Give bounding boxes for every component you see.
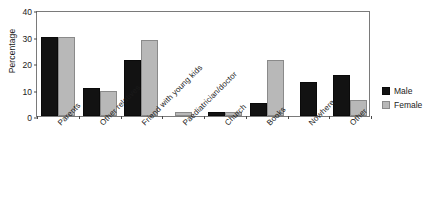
x-tick-mark <box>162 116 163 119</box>
clipped-chart-title <box>8 0 258 2</box>
bar-male <box>250 103 267 116</box>
bar-male <box>333 75 350 116</box>
bar-male <box>300 82 317 116</box>
y-axis-title: Percentage <box>7 16 17 86</box>
y-tick-label: 40 <box>0 7 37 17</box>
bar-group <box>288 12 330 116</box>
x-tick-mark <box>329 116 330 119</box>
x-tick-mark <box>204 116 205 119</box>
legend-swatch-female <box>382 101 390 109</box>
x-tick-mark <box>121 116 122 119</box>
legend-swatch-male <box>382 87 390 95</box>
legend-label: Female <box>394 100 422 110</box>
x-tick-mark <box>246 116 247 119</box>
x-tick-mark <box>288 116 289 119</box>
x-tick-mark <box>371 116 372 119</box>
bar-chart-figure: Percentage 010203040 ParentsOther relati… <box>0 0 431 203</box>
bar-male <box>41 37 58 117</box>
y-tick-label: 0 <box>0 113 37 123</box>
bar-group <box>246 12 288 116</box>
legend-item-female: Female <box>382 98 422 112</box>
bar-male <box>83 88 100 116</box>
y-tick-label: 20 <box>0 60 37 70</box>
legend-item-male: Male <box>382 84 422 98</box>
bar-group <box>79 12 121 116</box>
y-tick-label: 10 <box>0 87 37 97</box>
bar-male <box>208 112 225 116</box>
x-tick-mark <box>79 116 80 119</box>
y-tick-label: 30 <box>0 34 37 44</box>
legend-label: Male <box>394 86 412 96</box>
x-tick-mark <box>37 116 38 119</box>
bar-group <box>37 12 79 116</box>
chart-legend: MaleFemale <box>382 84 422 112</box>
bar-group <box>329 12 371 116</box>
